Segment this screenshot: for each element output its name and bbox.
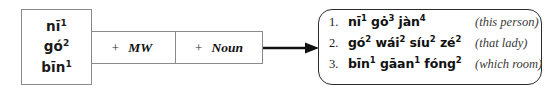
tone-number: 2 bbox=[399, 34, 405, 44]
determiner-text: n bbox=[46, 18, 56, 34]
syllable: síu bbox=[410, 35, 430, 50]
determiner-tail: n bbox=[56, 59, 66, 75]
tone-number: 1 bbox=[65, 58, 71, 68]
determiner-item: gó2 bbox=[44, 40, 70, 54]
example-gloss: (which room) bbox=[475, 58, 542, 71]
example-row: 2. gó2 wái2 síu2 zé2 (that lady) bbox=[319, 37, 541, 58]
noun-box: + Noun bbox=[175, 31, 263, 64]
determiner-vowel: ó bbox=[54, 38, 63, 54]
tone-number: 3 bbox=[388, 13, 394, 23]
example-phrase: gó2 wái2 síu2 zé2 bbox=[348, 37, 475, 50]
right-arrow-icon bbox=[263, 40, 321, 56]
tone-number: 2 bbox=[455, 34, 461, 44]
example-number: 2. bbox=[329, 37, 348, 50]
noun-label: Noun bbox=[211, 41, 243, 55]
examples-box: 1. nī1 gȯ3 jàn4 (this person) 2. gó2 wái… bbox=[318, 9, 542, 85]
plus-icon: + bbox=[112, 41, 119, 54]
example-number: 1. bbox=[329, 16, 348, 29]
example-phrase: nī1 gȯ3 jàn4 bbox=[348, 16, 475, 29]
syllable: gó bbox=[348, 35, 365, 50]
syllable: bīn bbox=[348, 56, 370, 71]
syllable: jàn bbox=[399, 14, 420, 29]
determiner-text: b bbox=[41, 59, 51, 75]
determiner-text: g bbox=[44, 38, 54, 54]
plus-icon: + bbox=[195, 41, 202, 54]
example-phrase: bīn1 gāan1 fóng2 bbox=[348, 58, 475, 71]
cantonese-phrase-structure-diagram: nī1 gó2 bīn1 + MW + Noun 1. nī1 gȯ3 jàn4 bbox=[0, 0, 554, 94]
syllable: gāan bbox=[380, 56, 414, 71]
example-number: 3. bbox=[329, 58, 348, 71]
syllable: wái bbox=[375, 35, 399, 50]
measure-word-box: + MW bbox=[88, 31, 176, 64]
tone-number: 2 bbox=[365, 34, 371, 44]
measure-word-label: MW bbox=[128, 41, 152, 55]
determiner-box: nī1 gó2 bīn1 bbox=[21, 9, 92, 85]
determiner-item: bīn1 bbox=[41, 61, 72, 75]
example-gloss: (that lady) bbox=[475, 37, 527, 50]
tone-number: 4 bbox=[420, 13, 426, 23]
tone-number: 1 bbox=[370, 55, 376, 65]
tone-number: 2 bbox=[430, 34, 436, 44]
tone-number: 1 bbox=[61, 17, 67, 27]
determiner-item: nī1 bbox=[46, 20, 67, 34]
example-row: 3. bīn1 gāan1 fóng2 (which room) bbox=[319, 58, 541, 79]
syllable: gȯ bbox=[371, 14, 388, 29]
tone-number: 2 bbox=[456, 55, 462, 65]
syllable: nī bbox=[348, 14, 361, 29]
syllable: zé bbox=[440, 35, 456, 50]
tone-number: 2 bbox=[63, 38, 69, 48]
syllable: fóng bbox=[424, 56, 455, 71]
tone-number: 1 bbox=[361, 13, 367, 23]
tone-number: 1 bbox=[414, 55, 420, 65]
example-gloss: (this person) bbox=[475, 16, 539, 29]
